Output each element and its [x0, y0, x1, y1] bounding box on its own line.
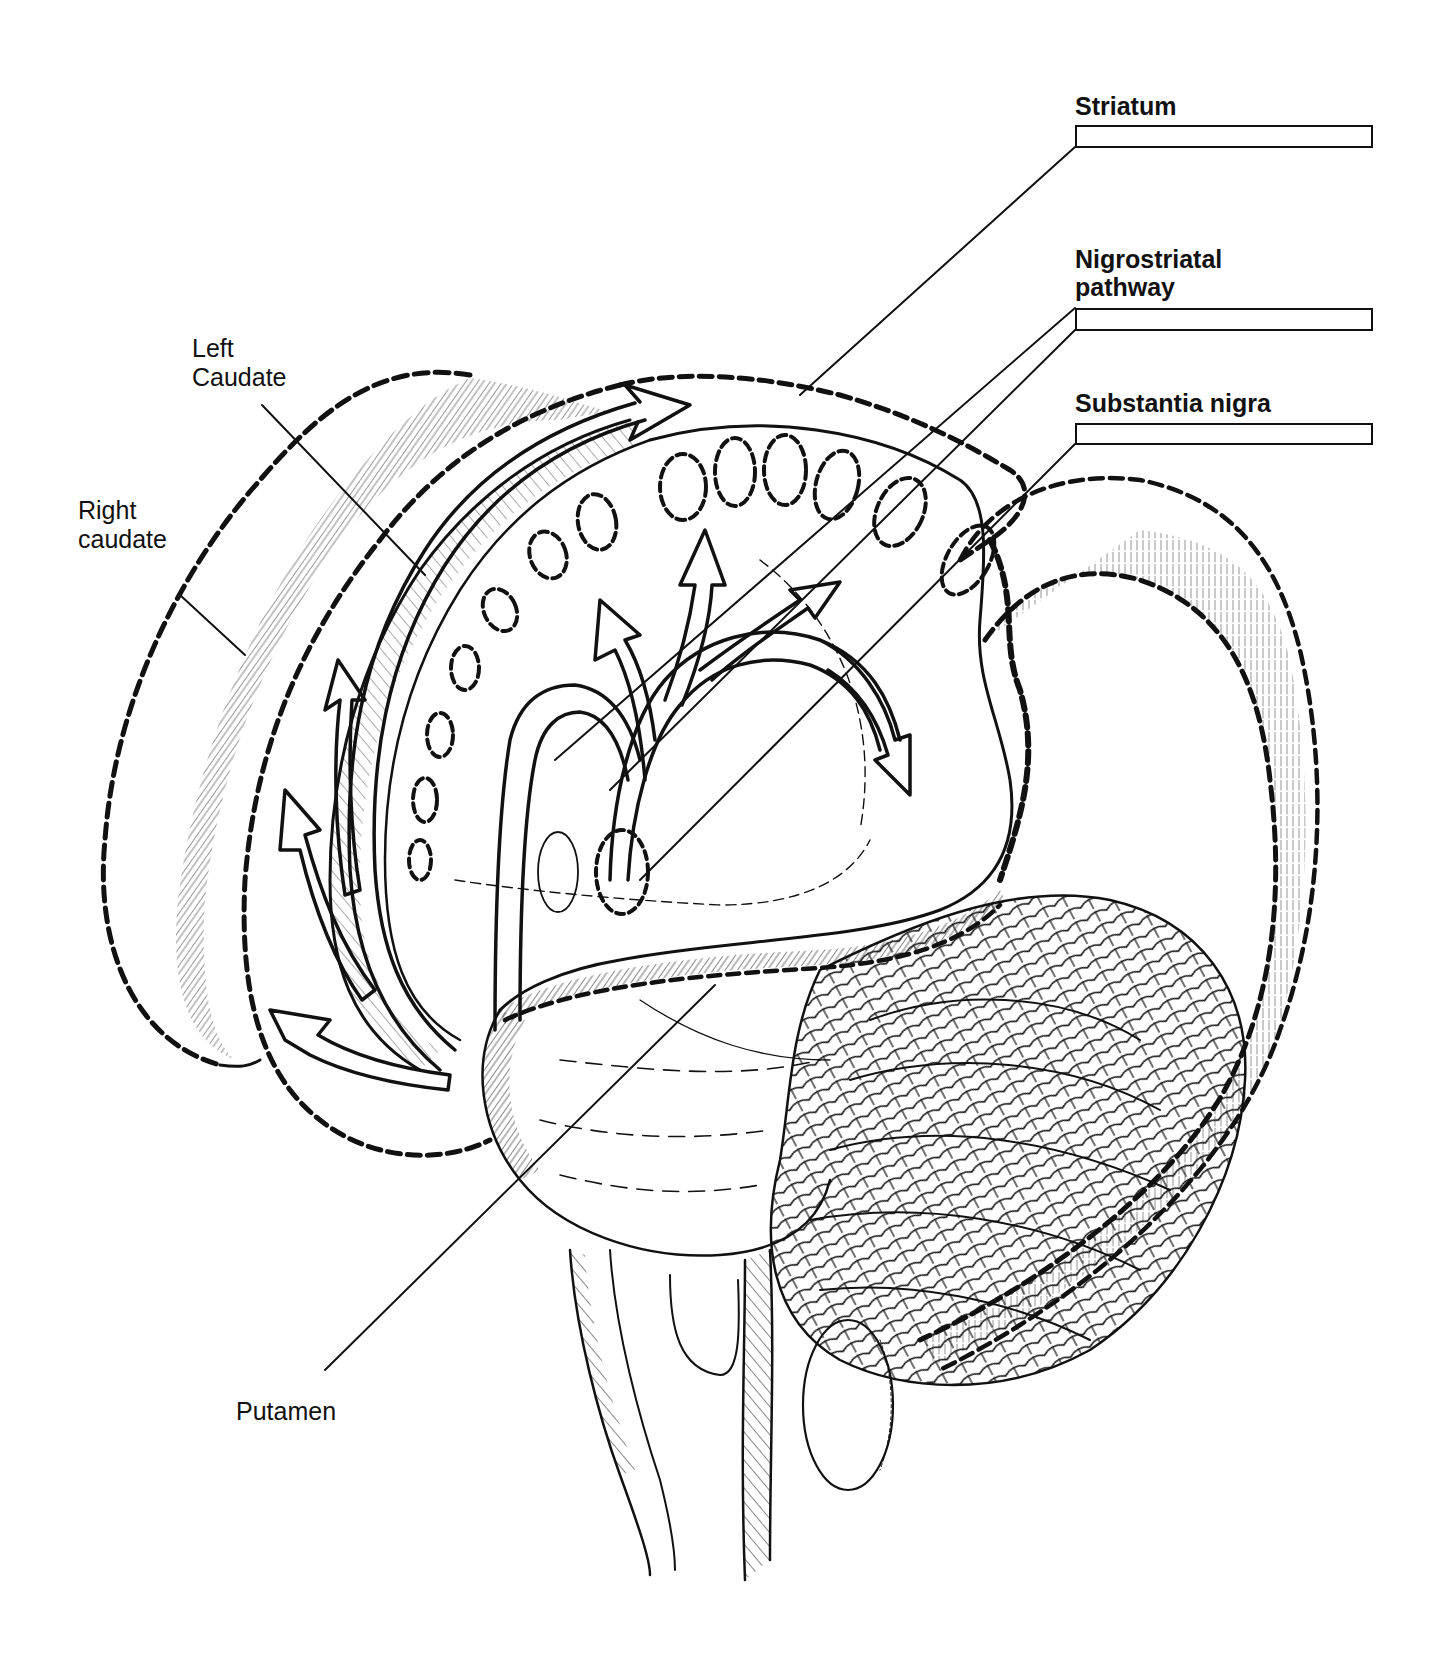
answer-box-substantia-nigra[interactable]	[1075, 423, 1373, 445]
brain-anatomy-illustration	[0, 0, 1445, 1669]
label-nigrostriatal-line2: pathway	[1075, 274, 1175, 301]
label-left-caudate-line1: Left	[192, 335, 234, 362]
label-striatum: Striatum	[1075, 93, 1176, 120]
label-right-caudate-line1: Right	[78, 497, 136, 524]
cerebellum-shape	[771, 895, 1245, 1385]
caudate-flow-arrows	[270, 385, 690, 1090]
label-left-caudate-line2: Caudate	[192, 364, 287, 391]
answer-box-nigrostriatal-pathway[interactable]	[1075, 308, 1373, 331]
label-right-caudate-line2: caudate	[78, 526, 167, 553]
label-nigrostriatal-line1: Nigrostriatal	[1075, 246, 1222, 273]
answer-box-striatum[interactable]	[1075, 125, 1373, 148]
label-substantia-nigra: Substantia nigra	[1075, 390, 1271, 417]
label-putamen: Putamen	[236, 1398, 336, 1425]
